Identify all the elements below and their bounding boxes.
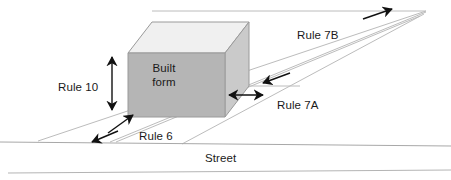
label-street: Street — [205, 152, 236, 165]
label-rule-7a: Rule 7A — [277, 99, 319, 112]
built-form-street-diagram: Rule 10 Rule 7B Rule 7A Rule 6 Street Bu… — [0, 0, 451, 180]
built-form-line-1: Built — [152, 61, 175, 75]
built-form-box — [128, 22, 249, 117]
label-rule-10: Rule 10 — [58, 81, 98, 94]
street-far-line — [8, 170, 451, 173]
label-rule-6: Rule 6 — [139, 130, 173, 143]
label-rule-7b: Rule 7B — [297, 29, 339, 42]
built-form-line-2: form — [152, 75, 175, 89]
label-built-form: Built form — [152, 61, 175, 89]
rule-7b-arrow-lower — [263, 73, 290, 83]
street-kerb-line — [0, 142, 451, 146]
box-front-face — [128, 53, 225, 117]
rule-6-arrow-to-building — [108, 115, 133, 133]
